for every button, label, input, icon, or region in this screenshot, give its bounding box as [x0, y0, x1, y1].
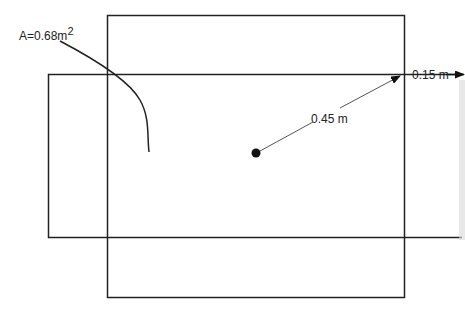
radius-label: 0.45 m: [311, 112, 348, 126]
area-pointer-curve: [60, 41, 149, 152]
area-label: A=0.68m2: [19, 25, 74, 43]
radius-line-lower: [260, 122, 313, 151]
diagram-svg: A=0.68m2 0.45 m 0.15 m: [0, 0, 465, 314]
area-label-text: A=0.68m: [19, 29, 67, 43]
radius-arrow: [340, 76, 400, 108]
area-label-superscript: 2: [67, 25, 73, 37]
offset-label: 0.15 m: [412, 68, 449, 82]
diagram-canvas: A=0.68m2 0.45 m 0.15 m: [0, 0, 465, 314]
edge-shading: [459, 80, 465, 240]
center-point: [252, 149, 261, 158]
